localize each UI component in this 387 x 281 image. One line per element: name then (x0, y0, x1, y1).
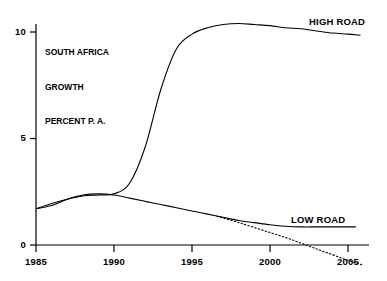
x-tick-label-1985: 1985 (16, 256, 56, 267)
series-label-high-road: HIGH ROAD (309, 16, 365, 27)
x-axis-ticks (36, 245, 348, 252)
caption-line-1: SOUTH AFRICA (45, 47, 109, 59)
x-tick-label-2000: 2000 (250, 256, 290, 267)
y-tick-label-5: 5 (4, 132, 26, 143)
x-tick-label-2005: 2005 (328, 256, 368, 267)
y-tick-label-0: 0 (4, 239, 26, 250)
x-tick-label-1990: 1990 (94, 256, 134, 267)
y-axis-ticks (30, 32, 36, 245)
chart-caption: SOUTH AFRICA GROWTH PERCENT P. A. (45, 24, 109, 151)
caption-line-2: GROWTH (45, 82, 109, 94)
x-tick-label-1995: 1995 (172, 256, 212, 267)
chart-container: SOUTH AFRICA GROWTH PERCENT P. A. HIGH R… (0, 0, 387, 281)
y-tick-label-10: 10 (4, 26, 26, 37)
series-label-low-road: LOW ROAD (291, 214, 345, 225)
caption-line-3: PERCENT P. A. (45, 116, 109, 128)
